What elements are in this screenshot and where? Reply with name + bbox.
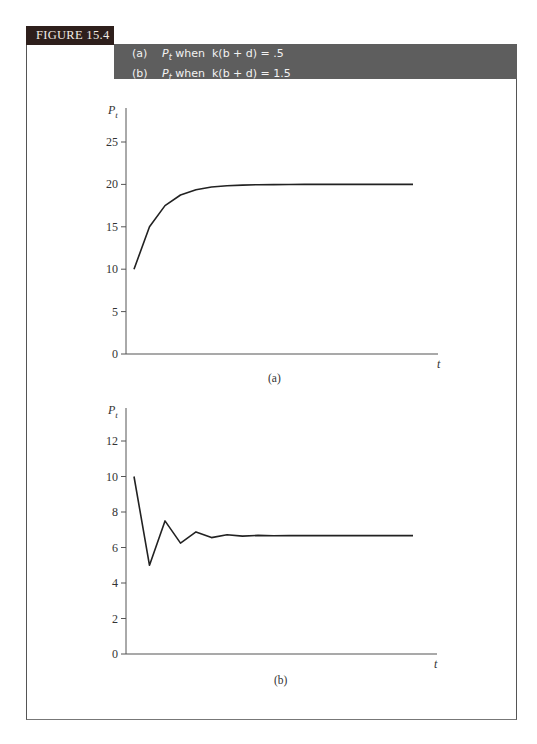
y-axis-label: Pt (107, 103, 118, 120)
chart-sublabel: (b) (274, 674, 288, 687)
x-axis-label: t (437, 357, 441, 371)
y-axis-label: Pt (107, 403, 118, 420)
y-tick-label: 5 (112, 305, 118, 319)
y-tick-label: 20 (106, 177, 118, 191)
y-tick-label: 0 (112, 647, 118, 661)
data-line (134, 477, 413, 566)
y-tick-label: 2 (112, 612, 118, 626)
y-tick-label: 0 (112, 347, 118, 361)
chart-sublabel: (a) (268, 372, 281, 385)
y-tick-label: 6 (112, 541, 118, 555)
y-tick-label: 15 (106, 220, 118, 234)
y-tick-label: 25 (106, 135, 118, 149)
x-axis-label: t (434, 657, 438, 671)
y-tick-label: 4 (112, 576, 118, 590)
y-tick-label: 10 (106, 262, 118, 276)
y-tick-label: 8 (112, 505, 118, 519)
y-tick-label: 10 (106, 470, 118, 484)
charts-canvas: 0510152025Ptt(a)024681012Ptt(b) (0, 0, 537, 744)
data-line (134, 184, 413, 269)
y-tick-label: 12 (106, 434, 118, 448)
